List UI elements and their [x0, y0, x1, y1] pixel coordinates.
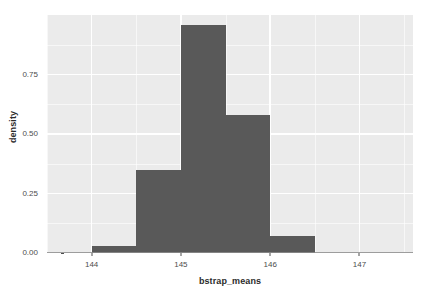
x-tick-label: 145 [174, 261, 187, 269]
x-tick-mark [270, 253, 271, 256]
x-tick-mark [359, 253, 360, 256]
x-tick-mark [91, 253, 92, 256]
x-axis-tick-labels: 144145146147 [0, 0, 427, 303]
x-axis-title: bstrap_means [47, 276, 413, 286]
x-tick-label: 144 [85, 261, 98, 269]
x-tick-label: 146 [263, 261, 276, 269]
x-tick-label: 147 [353, 261, 366, 269]
x-tick-mark [180, 253, 181, 256]
histogram-plot: density 0.000.250.500.75 144145146147 bs… [0, 0, 427, 303]
